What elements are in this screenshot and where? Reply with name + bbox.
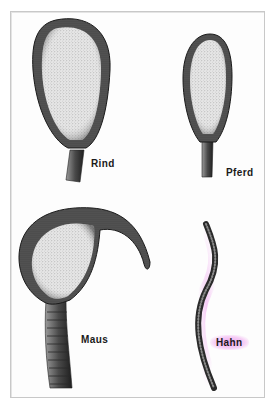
label-maus: Maus — [81, 334, 108, 345]
label-rind: Rind — [91, 158, 115, 169]
maus-specimen-drawing — [19, 208, 150, 388]
hahn-specimen-drawing — [198, 224, 215, 388]
label-pferd: Pferd — [226, 167, 254, 178]
label-hahn: Hahn — [210, 335, 249, 350]
pferd-specimen-drawing — [183, 34, 232, 177]
